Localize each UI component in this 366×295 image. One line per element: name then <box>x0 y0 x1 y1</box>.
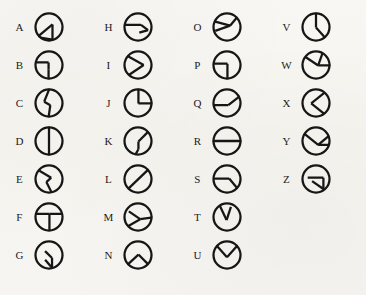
cipher-glyph-l-icon <box>121 162 155 196</box>
cipher-entry-x: X <box>273 84 333 122</box>
cipher-glyph-b-icon <box>32 48 66 82</box>
cipher-glyph-m-icon <box>121 200 155 234</box>
cipher-letter-c: C <box>14 98 25 109</box>
cipher-letter-z: Z <box>281 174 292 185</box>
cipher-glyph-z-icon <box>299 162 333 196</box>
cipher-entry-z: Z <box>273 160 333 198</box>
cipher-glyph-s-icon <box>210 162 244 196</box>
cipher-glyph-c-icon <box>32 86 66 120</box>
cipher-glyph-t-icon <box>210 200 244 234</box>
cipher-entry-p: P <box>184 46 244 84</box>
cipher-glyph-h-icon <box>121 10 155 44</box>
cipher-glyph-q-icon <box>210 86 244 120</box>
cipher-glyph-n-icon <box>121 238 155 272</box>
cipher-glyph-g-icon <box>32 238 66 272</box>
cipher-entry-i: I <box>95 46 155 84</box>
cipher-glyph-w-icon <box>299 48 333 82</box>
cipher-glyph-p-icon <box>210 48 244 82</box>
cipher-entry-k: K <box>95 122 155 160</box>
cipher-letter-p: P <box>192 60 203 71</box>
cipher-letter-l: L <box>103 174 114 185</box>
cipher-glyph-i-icon <box>121 48 155 82</box>
cipher-glyph-o-icon <box>210 10 244 44</box>
cipher-letter-e: E <box>14 174 25 185</box>
cipher-entry-a: A <box>6 8 66 46</box>
cipher-entry-s: S <box>184 160 244 198</box>
cipher-entry-c: C <box>6 84 66 122</box>
cipher-letter-v: V <box>281 22 292 33</box>
cipher-entry-d: D <box>6 122 66 160</box>
cipher-letter-x: X <box>281 98 292 109</box>
cipher-entry-u: U <box>184 236 244 274</box>
cipher-letter-w: W <box>281 60 292 71</box>
cipher-letter-r: R <box>192 136 203 147</box>
cipher-glyph-e-icon <box>32 162 66 196</box>
cipher-glyph-f-icon <box>32 200 66 234</box>
cipher-entry-h: H <box>95 8 155 46</box>
cipher-glyph-v-icon <box>299 10 333 44</box>
cipher-glyph-a-icon <box>32 10 66 44</box>
cipher-letter-i: I <box>103 60 114 71</box>
cipher-alphabet-chart: ABCDEFGHIJKLMNOPQRSTUVWXYZ <box>0 0 366 295</box>
cipher-letter-u: U <box>192 250 203 261</box>
cipher-entry-g: G <box>6 236 66 274</box>
cipher-letter-h: H <box>103 22 114 33</box>
cipher-entry-o: O <box>184 8 244 46</box>
cipher-letter-s: S <box>192 174 203 185</box>
cipher-entry-v: V <box>273 8 333 46</box>
cipher-glyph-k-icon <box>121 124 155 158</box>
cipher-letter-y: Y <box>281 136 292 147</box>
cipher-letter-q: Q <box>192 98 203 109</box>
cipher-column-0: ABCDEFG <box>6 8 95 289</box>
cipher-glyph-j-icon <box>121 86 155 120</box>
cipher-entry-r: R <box>184 122 244 160</box>
cipher-glyph-r-icon <box>210 124 244 158</box>
cipher-entry-f: F <box>6 198 66 236</box>
cipher-column-3: VWXYZ <box>273 8 362 289</box>
cipher-letter-k: K <box>103 136 114 147</box>
cipher-letter-t: T <box>192 212 203 223</box>
cipher-entry-e: E <box>6 160 66 198</box>
cipher-letter-j: J <box>103 98 114 109</box>
cipher-letter-m: M <box>103 212 114 223</box>
cipher-glyph-y-icon <box>299 124 333 158</box>
cipher-letter-o: O <box>192 22 203 33</box>
cipher-letter-g: G <box>14 250 25 261</box>
cipher-glyph-u-icon <box>210 238 244 272</box>
cipher-column-2: OPQRSTU <box>184 8 273 289</box>
cipher-entry-b: B <box>6 46 66 84</box>
cipher-entry-w: W <box>273 46 333 84</box>
cipher-entry-l: L <box>95 160 155 198</box>
cipher-letter-f: F <box>14 212 25 223</box>
cipher-letter-n: N <box>103 250 114 261</box>
cipher-letter-a: A <box>14 22 25 33</box>
cipher-entry-q: Q <box>184 84 244 122</box>
cipher-entry-j: J <box>95 84 155 122</box>
cipher-entry-m: M <box>95 198 155 236</box>
cipher-column-1: HIJKLMN <box>95 8 184 289</box>
cipher-letter-d: D <box>14 136 25 147</box>
cipher-entry-y: Y <box>273 122 333 160</box>
cipher-glyph-d-icon <box>32 124 66 158</box>
cipher-glyph-x-icon <box>299 86 333 120</box>
cipher-entry-n: N <box>95 236 155 274</box>
cipher-letter-b: B <box>14 60 25 71</box>
cipher-entry-t: T <box>184 198 244 236</box>
